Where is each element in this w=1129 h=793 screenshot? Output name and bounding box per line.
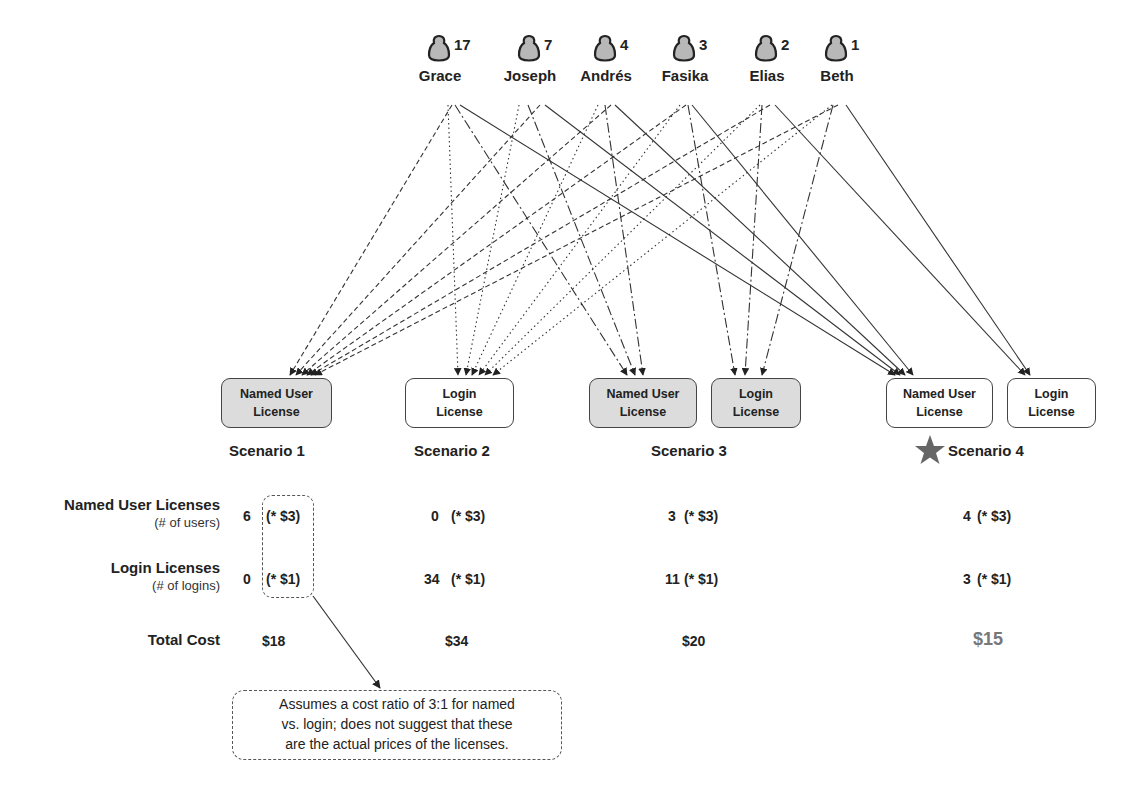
box-label-line1: Named User (903, 385, 976, 403)
s3-login-rate: (* $1) (684, 571, 718, 587)
s2-login-rate: (* $1) (451, 571, 485, 587)
cost-ratio-callout: Assumes a cost ratio of 3:1 for named vs… (232, 690, 562, 760)
login-count: 2 (781, 36, 789, 53)
s4-total-cost-best: $15 (973, 629, 1003, 650)
scenario-2-login-license: LoginLicense (405, 378, 514, 428)
box-label-line2: License (903, 403, 976, 421)
user-name: Beth (797, 67, 877, 85)
rate-highlight-bracket (262, 495, 314, 598)
person-silhouette-icon (592, 34, 618, 62)
s2-login-count: 34 (424, 571, 440, 587)
user-name: Joseph (490, 67, 570, 85)
person-silhouette-icon (753, 34, 779, 62)
s1-named-count: 6 (243, 508, 251, 524)
scenario-4-links (460, 105, 1030, 375)
s3-named-rate: (* $3) (684, 508, 718, 524)
login-count: 7 (544, 36, 552, 53)
user-joseph: 7 Joseph (490, 34, 570, 85)
login-count: 4 (620, 36, 628, 53)
s2-total-cost: $34 (445, 633, 468, 649)
user-name: Elias (727, 67, 807, 85)
scenario-1-links (290, 105, 838, 375)
s4-named-count: 4 (963, 508, 971, 524)
row-label-sub: (# of logins) (111, 577, 220, 594)
row-label-main: Total Cost (148, 631, 220, 649)
login-count: 17 (454, 36, 471, 53)
person-silhouette-icon (426, 34, 452, 62)
user-name: Fasika (645, 67, 725, 85)
scenario-3-login-license: LoginLicense (711, 378, 801, 428)
s1-total-cost: $18 (262, 633, 285, 649)
callout-line: vs. login; does not suggest that these (233, 714, 561, 734)
row-label-login-licenses: Login Licenses (# of logins) (111, 559, 220, 594)
user-andres: 4 Andrés (566, 34, 646, 85)
user-name: Grace (400, 67, 480, 85)
callout-line: Assumes a cost ratio of 3:1 for named (233, 694, 561, 714)
scenario-3-label: Scenario 3 (651, 442, 727, 459)
person-silhouette-icon (516, 34, 542, 62)
scenario-4-login-license: LoginLicense (1007, 378, 1096, 428)
user-grace: 17 Grace (400, 34, 480, 85)
s3-named-count: 3 (668, 508, 676, 524)
box-label-line2: License (436, 403, 483, 421)
s1-login-count: 0 (243, 571, 251, 587)
scenario-2-label: Scenario 2 (414, 442, 490, 459)
scenario-1-named-user-license: Named UserLicense (221, 378, 332, 428)
user-name: Andrés (566, 67, 646, 85)
box-label-line1: Named User (240, 385, 313, 403)
box-label-line2: License (1028, 403, 1075, 421)
user-beth: 1 Beth (797, 34, 877, 85)
star-icon (914, 434, 946, 466)
user-fasika: 3 Fasika (645, 34, 725, 85)
person-silhouette-icon (823, 34, 849, 62)
s2-named-rate: (* $3) (451, 508, 485, 524)
s4-named-rate: (* $3) (977, 508, 1011, 524)
scenario-4-named-user-license: Named UserLicense (886, 378, 993, 428)
user-elias: 2 Elias (727, 34, 807, 85)
scenario-2-links (448, 105, 832, 375)
scenario-4-label: Scenario 4 (948, 442, 1024, 459)
scenario-3-links (455, 105, 833, 375)
s4-login-rate: (* $1) (977, 571, 1011, 587)
box-label-line2: License (733, 403, 780, 421)
box-label-line2: License (607, 403, 680, 421)
box-label-line1: Login (1028, 385, 1075, 403)
row-label-named-user-licenses: Named User Licenses (# of users) (64, 496, 220, 531)
row-label-main: Named User Licenses (64, 496, 220, 514)
s3-total-cost: $20 (682, 633, 705, 649)
box-label-line1: Login (436, 385, 483, 403)
box-label-line1: Login (733, 385, 780, 403)
person-silhouette-icon (671, 34, 697, 62)
row-label-sub: (# of users) (64, 514, 220, 531)
s4-login-count: 3 (963, 571, 971, 587)
box-label-line1: Named User (607, 385, 680, 403)
box-label-line2: License (240, 403, 313, 421)
s3-login-count: 11 (665, 571, 680, 587)
callout-line: are the actual prices of the licenses. (233, 734, 561, 754)
login-count: 3 (699, 36, 707, 53)
row-label-total-cost: Total Cost (148, 631, 220, 649)
s2-named-count: 0 (431, 508, 439, 524)
row-label-main: Login Licenses (111, 559, 220, 577)
login-count: 1 (851, 36, 859, 53)
scenario-3-named-user-license: Named UserLicense (589, 378, 697, 428)
scenario-1-label: Scenario 1 (229, 442, 305, 459)
callout-pointer (313, 596, 380, 688)
